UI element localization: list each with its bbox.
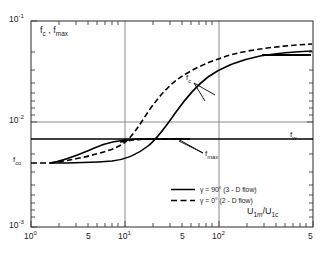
legend-desc-2d: (2 - D flow) bbox=[220, 197, 253, 204]
y-tick-exp-1e-3: -3 bbox=[18, 218, 23, 225]
plot-canvas bbox=[0, 0, 329, 262]
annotation-fco-sub: co bbox=[15, 160, 21, 166]
legend-desc-3d: (3 - D flow) bbox=[223, 186, 256, 193]
x-tick-mant-5a: 5 bbox=[86, 231, 91, 241]
x-axis-title-sub2: 1c bbox=[272, 211, 279, 218]
x-axis-title-sub1: 1m bbox=[254, 211, 263, 218]
legend-item-2d: γ = 0° (2 - D flow) bbox=[170, 195, 257, 206]
x-tick-label-5a: 5 bbox=[86, 232, 91, 241]
annotation-fw-sub: w bbox=[292, 135, 296, 141]
annotation-fco: fco bbox=[13, 156, 21, 164]
x-tick-exp-1e1: 1 bbox=[127, 229, 130, 236]
annotation-fc: fc bbox=[186, 74, 191, 82]
x-axis-title: U1m/U1c bbox=[247, 207, 278, 216]
legend-label-2d: γ = 0° (2 - D flow) bbox=[200, 197, 253, 204]
x-tick-exp-1e2: 2 bbox=[221, 229, 224, 236]
x-tick-exp-1e0: 0 bbox=[33, 229, 36, 236]
x-tick-label-1e1: 101 bbox=[118, 232, 131, 241]
y-tick-label-1e-2: 10-2 bbox=[9, 116, 24, 125]
x-tick-label-5c: 5 bbox=[308, 232, 313, 241]
legend-gamma-2d: γ = 0° bbox=[200, 197, 218, 204]
x-axis-title-slash: /U bbox=[263, 206, 272, 216]
x-tick-mant-5c: 5 bbox=[308, 231, 313, 241]
annotation-fw: fw bbox=[290, 131, 296, 139]
x-tick-label-1e0: 100 bbox=[24, 232, 37, 241]
annotation-fc-sub: c bbox=[188, 78, 191, 84]
y-tick-exp-1e-1: -1 bbox=[18, 12, 23, 19]
legend-swatch-solid-icon bbox=[170, 185, 196, 194]
y-axis-title-fmax-sub: max bbox=[56, 30, 68, 37]
annotation-fmax: fmax bbox=[205, 150, 218, 158]
figure-chart-fc-fmax: 10-1 10-2 10-3 100 5 101 5 102 5 fc , fm… bbox=[0, 0, 329, 262]
x-tick-mant-5b: 5 bbox=[180, 231, 185, 241]
legend: γ = 90° (3 - D flow) γ = 0° (2 - D flow) bbox=[170, 184, 257, 206]
legend-label-3d: γ = 90° (3 - D flow) bbox=[200, 186, 257, 193]
y-axis-title-sep: , bbox=[46, 25, 51, 35]
x-tick-label-5b: 5 bbox=[180, 232, 185, 241]
y-tick-exp-1e-2: -2 bbox=[18, 113, 23, 120]
legend-item-3d: γ = 90° (3 - D flow) bbox=[170, 184, 257, 195]
y-axis-title: fc , fmax bbox=[40, 26, 68, 35]
y-tick-label-1e-3: 10-3 bbox=[9, 221, 24, 230]
y-tick-label-1e-1: 10-1 bbox=[9, 15, 24, 24]
legend-swatch-dashed-icon bbox=[170, 196, 196, 205]
annotation-fmax-sub: max bbox=[207, 154, 218, 160]
x-tick-label-1e2: 102 bbox=[212, 232, 225, 241]
legend-gamma-3d: γ = 90° bbox=[200, 186, 221, 193]
